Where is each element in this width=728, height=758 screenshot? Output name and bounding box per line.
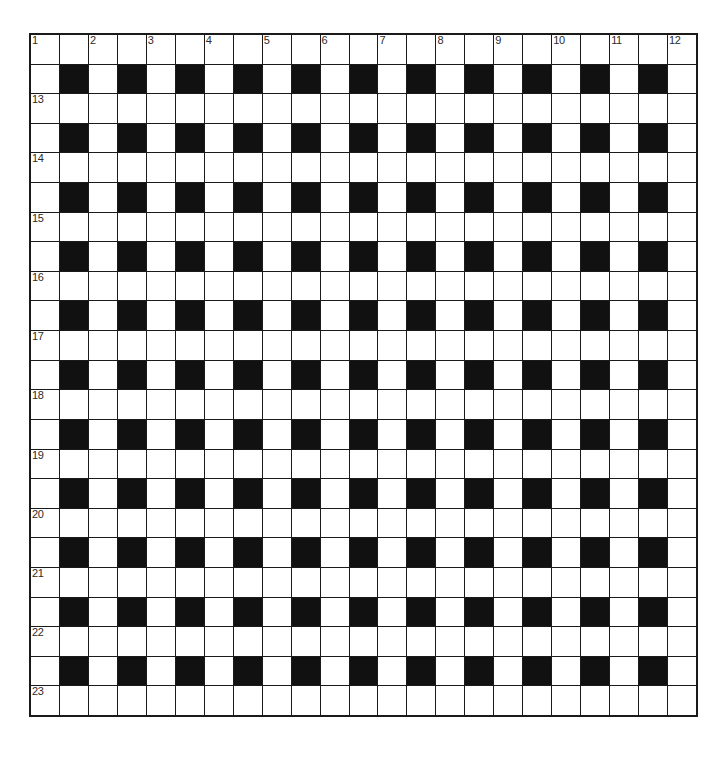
crossword-cell[interactable] bbox=[523, 390, 551, 419]
crossword-cell[interactable] bbox=[321, 361, 349, 390]
crossword-cell[interactable]: 9 bbox=[494, 35, 522, 64]
crossword-cell[interactable] bbox=[465, 450, 493, 479]
crossword-cell[interactable] bbox=[610, 420, 638, 449]
crossword-cell[interactable] bbox=[31, 657, 59, 686]
crossword-cell[interactable] bbox=[465, 568, 493, 597]
crossword-cell[interactable] bbox=[378, 509, 406, 538]
crossword-cell[interactable] bbox=[494, 272, 522, 301]
crossword-cell[interactable] bbox=[523, 272, 551, 301]
crossword-cell[interactable] bbox=[31, 301, 59, 330]
crossword-cell[interactable] bbox=[436, 65, 464, 94]
crossword-cell[interactable] bbox=[292, 331, 320, 360]
crossword-cell[interactable] bbox=[378, 390, 406, 419]
crossword-cell[interactable] bbox=[378, 213, 406, 242]
crossword-cell[interactable]: 21 bbox=[31, 568, 59, 597]
crossword-cell[interactable] bbox=[581, 686, 609, 715]
crossword-cell[interactable] bbox=[147, 479, 175, 508]
crossword-cell[interactable] bbox=[31, 65, 59, 94]
crossword-cell[interactable] bbox=[407, 509, 435, 538]
crossword-cell[interactable] bbox=[436, 124, 464, 153]
crossword-cell[interactable] bbox=[465, 35, 493, 64]
crossword-cell[interactable] bbox=[668, 657, 696, 686]
crossword-cell[interactable] bbox=[89, 420, 117, 449]
crossword-cell[interactable] bbox=[321, 124, 349, 153]
crossword-cell[interactable] bbox=[523, 686, 551, 715]
crossword-cell[interactable] bbox=[118, 213, 146, 242]
crossword-cell[interactable] bbox=[89, 598, 117, 627]
crossword-cell[interactable] bbox=[118, 390, 146, 419]
crossword-cell[interactable] bbox=[263, 657, 291, 686]
crossword-cell[interactable] bbox=[263, 124, 291, 153]
crossword-cell[interactable] bbox=[523, 627, 551, 656]
crossword-cell[interactable] bbox=[176, 213, 204, 242]
crossword-cell[interactable] bbox=[436, 301, 464, 330]
crossword-cell[interactable] bbox=[147, 65, 175, 94]
crossword-cell[interactable] bbox=[147, 627, 175, 656]
crossword-cell[interactable] bbox=[436, 509, 464, 538]
crossword-cell[interactable] bbox=[321, 538, 349, 567]
crossword-cell[interactable] bbox=[523, 94, 551, 123]
crossword-cell[interactable] bbox=[234, 153, 262, 182]
crossword-cell[interactable] bbox=[350, 213, 378, 242]
crossword-cell[interactable] bbox=[523, 331, 551, 360]
crossword-cell[interactable]: 19 bbox=[31, 450, 59, 479]
crossword-cell[interactable] bbox=[89, 153, 117, 182]
crossword-cell[interactable] bbox=[465, 94, 493, 123]
crossword-cell[interactable] bbox=[552, 627, 580, 656]
crossword-cell[interactable] bbox=[234, 272, 262, 301]
crossword-cell[interactable] bbox=[610, 242, 638, 271]
crossword-cell[interactable] bbox=[263, 65, 291, 94]
crossword-cell[interactable] bbox=[263, 686, 291, 715]
crossword-cell[interactable] bbox=[639, 35, 667, 64]
crossword-cell[interactable] bbox=[378, 361, 406, 390]
crossword-cell[interactable] bbox=[89, 450, 117, 479]
crossword-cell[interactable] bbox=[378, 479, 406, 508]
crossword-cell[interactable] bbox=[321, 568, 349, 597]
crossword-cell[interactable] bbox=[407, 390, 435, 419]
crossword-cell[interactable] bbox=[668, 479, 696, 508]
crossword-cell[interactable] bbox=[292, 272, 320, 301]
crossword-cell[interactable] bbox=[205, 420, 233, 449]
crossword-cell[interactable] bbox=[118, 272, 146, 301]
crossword-cell[interactable] bbox=[176, 627, 204, 656]
crossword-cell[interactable] bbox=[465, 686, 493, 715]
crossword-cell[interactable] bbox=[31, 479, 59, 508]
crossword-cell[interactable]: 17 bbox=[31, 331, 59, 360]
crossword-cell[interactable] bbox=[292, 509, 320, 538]
crossword-cell[interactable] bbox=[610, 479, 638, 508]
crossword-cell[interactable] bbox=[292, 686, 320, 715]
crossword-cell[interactable] bbox=[668, 242, 696, 271]
crossword-cell[interactable] bbox=[205, 538, 233, 567]
crossword-cell[interactable] bbox=[60, 272, 88, 301]
crossword-cell[interactable] bbox=[581, 568, 609, 597]
crossword-cell[interactable] bbox=[668, 598, 696, 627]
crossword-cell[interactable] bbox=[205, 568, 233, 597]
crossword-cell[interactable] bbox=[436, 686, 464, 715]
crossword-cell[interactable] bbox=[494, 242, 522, 271]
crossword-cell[interactable] bbox=[147, 686, 175, 715]
crossword-cell[interactable] bbox=[89, 301, 117, 330]
crossword-cell[interactable] bbox=[205, 213, 233, 242]
crossword-cell[interactable] bbox=[668, 124, 696, 153]
crossword-cell[interactable] bbox=[205, 686, 233, 715]
crossword-cell[interactable] bbox=[610, 568, 638, 597]
crossword-cell[interactable] bbox=[552, 479, 580, 508]
crossword-cell[interactable] bbox=[89, 568, 117, 597]
crossword-cell[interactable] bbox=[60, 213, 88, 242]
crossword-cell[interactable] bbox=[436, 272, 464, 301]
crossword-cell[interactable] bbox=[668, 568, 696, 597]
crossword-cell[interactable] bbox=[523, 509, 551, 538]
crossword-cell[interactable] bbox=[89, 183, 117, 212]
crossword-cell[interactable] bbox=[321, 331, 349, 360]
crossword-cell[interactable]: 11 bbox=[610, 35, 638, 64]
crossword-cell[interactable] bbox=[581, 509, 609, 538]
crossword-cell[interactable] bbox=[552, 568, 580, 597]
crossword-cell[interactable] bbox=[176, 331, 204, 360]
crossword-cell[interactable] bbox=[552, 657, 580, 686]
crossword-cell[interactable] bbox=[552, 65, 580, 94]
crossword-cell[interactable] bbox=[581, 35, 609, 64]
crossword-cell[interactable] bbox=[147, 420, 175, 449]
crossword-cell[interactable] bbox=[321, 686, 349, 715]
crossword-cell[interactable] bbox=[147, 272, 175, 301]
crossword-cell[interactable] bbox=[321, 420, 349, 449]
